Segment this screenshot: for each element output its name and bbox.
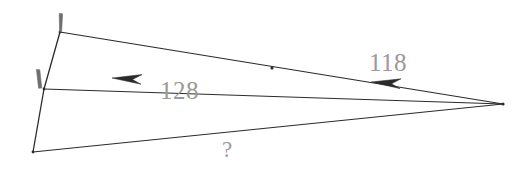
segment-top-to-middle — [44, 32, 60, 89]
vertex-right-apex — [501, 102, 504, 105]
segment-middle-to-apex — [44, 89, 503, 104]
vertex-middle — [43, 88, 46, 91]
side-length-label-unknown: ? — [222, 138, 232, 161]
figure-canvas — [0, 0, 522, 173]
side-length-label-128: 128 — [160, 78, 199, 103]
segment-bottom-to-apex — [33, 104, 503, 152]
tick-mark-icon-middle — [36, 70, 41, 89]
segment-middle-to-bottom — [33, 89, 44, 152]
segment-top-to-apex — [60, 32, 503, 104]
geometry-diagram: 118 128 ? — [0, 0, 522, 173]
vertex-intersection — [270, 66, 273, 69]
arrowhead-icon-on-128-line — [112, 75, 142, 85]
side-length-label-118: 118 — [369, 50, 407, 75]
vertex-bottom-left — [32, 151, 35, 154]
tick-mark-icon-top — [59, 14, 62, 32]
